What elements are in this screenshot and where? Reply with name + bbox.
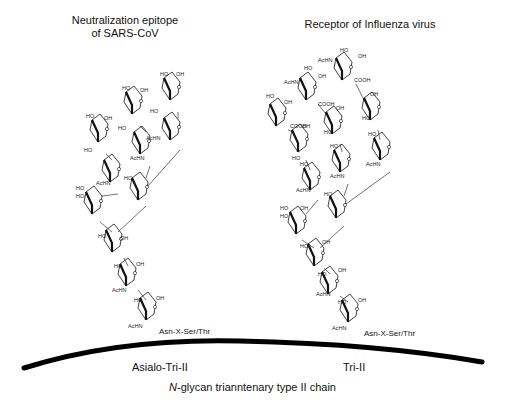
svg-text:HO: HO	[86, 113, 95, 119]
svg-text:HO: HO	[338, 299, 347, 305]
svg-text:HO: HO	[304, 65, 313, 71]
svg-text:HO: HO	[280, 213, 289, 219]
caption-text: -glycan trianntenary type II chain	[177, 381, 336, 393]
svg-text:AcHN: AcHN	[284, 79, 298, 85]
svg-text:OH: OH	[136, 261, 144, 267]
svg-text:HO: HO	[300, 243, 309, 249]
tri-ii-label: Tri-II	[343, 361, 365, 373]
svg-text:HO: HO	[318, 271, 327, 277]
svg-text:AcHN: AcHN	[318, 57, 332, 63]
svg-text:OH: OH	[156, 295, 164, 301]
svg-text:HO: HO	[98, 233, 107, 239]
svg-text:AcHN: AcHN	[146, 135, 160, 141]
asialo-tri-ii-label: Asialo-Tri-II	[132, 361, 188, 373]
svg-text:AcHN: AcHN	[296, 187, 310, 193]
caption-italic-n: N	[169, 381, 177, 393]
svg-text:HO: HO	[84, 147, 93, 153]
svg-text:AcHN: AcHN	[130, 155, 144, 161]
membrane-curve	[24, 341, 482, 368]
svg-text:HO: HO	[124, 175, 133, 181]
svg-text:OH: OH	[358, 53, 366, 59]
svg-text:AcHN: AcHN	[330, 173, 344, 179]
svg-text:OH: OH	[370, 91, 378, 97]
svg-text:HO: HO	[324, 129, 333, 135]
svg-text:HO: HO	[300, 161, 309, 167]
svg-text:OH: OH	[176, 71, 184, 77]
asn-anchor-right: Asn-X-Ser/Thr	[364, 329, 415, 338]
svg-text:HO: HO	[76, 185, 85, 191]
svg-text:OH: OH	[300, 205, 308, 211]
svg-text:HO: HO	[114, 263, 123, 269]
svg-text:OH: OH	[284, 99, 292, 105]
svg-text:OH: OH	[140, 87, 148, 93]
figure-caption: N-glycan trianntenary type II chain	[0, 381, 505, 393]
svg-text:HO: HO	[362, 115, 371, 121]
svg-text:AcHN: AcHN	[96, 180, 110, 186]
svg-text:AcHN: AcHN	[316, 291, 330, 297]
svg-text:COOH: COOH	[318, 101, 335, 107]
svg-text:AcHN: AcHN	[366, 161, 380, 167]
svg-text:HO: HO	[118, 125, 127, 131]
svg-text:OH: OH	[104, 115, 112, 121]
svg-text:AcHN: AcHN	[128, 323, 142, 329]
svg-text:AcHN: AcHN	[112, 287, 126, 293]
svg-text:OH: OH	[120, 235, 128, 241]
glycan-structure-diagram: HOOH HOAcHN HOOH HOAcHN HOOH HOAcHN HOHO…	[0, 0, 505, 406]
svg-text:AcHN: AcHN	[332, 325, 346, 331]
svg-text:HO: HO	[280, 205, 289, 211]
svg-text:OH: OH	[336, 105, 344, 111]
asn-anchor-left: Asn-X-Ser/Thr	[159, 327, 210, 336]
svg-text:HO: HO	[324, 191, 333, 197]
left-glycan-structure: HOOH HOAcHN HOOH HOAcHN HOOH HOAcHN HOHO…	[76, 71, 210, 336]
svg-text:OH: OH	[358, 297, 366, 303]
svg-text:HO: HO	[266, 93, 275, 99]
svg-text:OH: OH	[322, 239, 330, 245]
svg-text:OH: OH	[318, 73, 326, 79]
svg-text:HO: HO	[122, 85, 131, 91]
svg-text:HO: HO	[160, 71, 169, 77]
right-glycan-structure: HOAcHNOH COOH HOAcHNOH COOH HOOH COOH OH…	[266, 47, 415, 338]
svg-text:HO: HO	[150, 108, 159, 114]
svg-text:HO: HO	[368, 131, 377, 137]
svg-text:HO: HO	[134, 297, 143, 303]
svg-text:OH: OH	[302, 123, 310, 129]
svg-text:OH: OH	[338, 267, 346, 273]
svg-text:HO: HO	[340, 47, 349, 53]
svg-text:HO: HO	[330, 143, 339, 149]
svg-text:COOH: COOH	[354, 77, 371, 83]
svg-text:HO: HO	[76, 193, 85, 199]
